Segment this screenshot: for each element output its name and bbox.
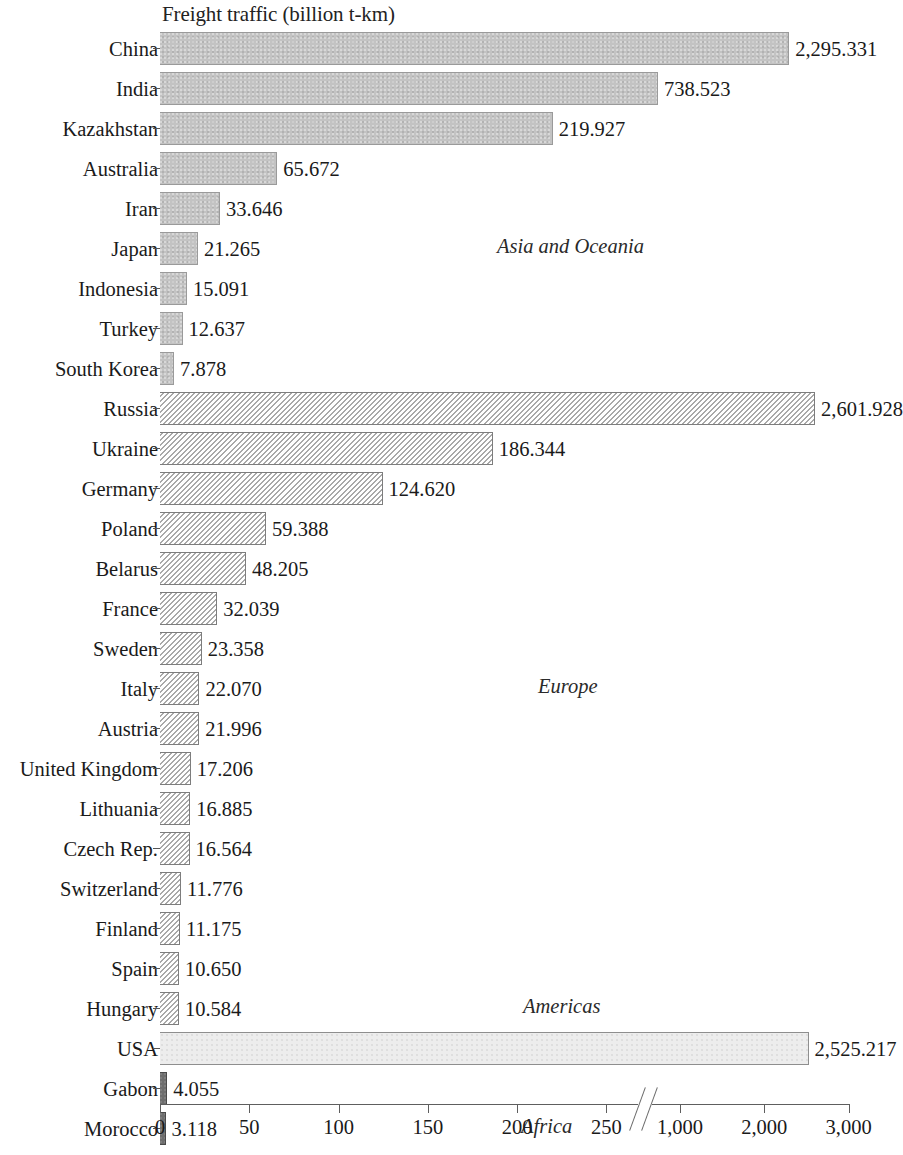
- bar[interactable]: [160, 912, 180, 945]
- category-label: Indonesia: [78, 276, 158, 302]
- bar-row: Spain10.650: [0, 949, 883, 989]
- bar[interactable]: [160, 512, 266, 545]
- x-axis-tick-label: 2,000: [741, 1116, 787, 1139]
- category-label: Germany: [82, 476, 158, 502]
- category-label: Belarus: [95, 556, 158, 582]
- bar[interactable]: [160, 672, 199, 705]
- category-label: Italy: [120, 676, 158, 702]
- category-label: Lithuania: [79, 796, 158, 822]
- category-tick: [153, 128, 160, 129]
- x-axis-tick-label: 0: [155, 1116, 165, 1139]
- category-label: India: [116, 76, 158, 102]
- bar[interactable]: [160, 952, 179, 985]
- category-label: United Kingdom: [20, 756, 158, 782]
- x-axis-tick-label: 250: [591, 1116, 622, 1139]
- bar[interactable]: [160, 712, 199, 745]
- bar[interactable]: [160, 392, 815, 425]
- x-axis-line: [160, 1104, 849, 1105]
- bar-value-label: 2,525.217: [815, 1036, 897, 1062]
- bar-value-label: 7.878: [180, 356, 226, 382]
- x-axis-tick: [339, 1104, 340, 1113]
- x-axis-tick: [606, 1104, 607, 1113]
- bar[interactable]: [160, 272, 187, 305]
- plot-area: China2,295.331India738.523Kazakhstan219.…: [0, 29, 883, 1104]
- bar-value-label: 22.070: [205, 676, 261, 702]
- bar-row: Lithuania16.885: [0, 789, 883, 829]
- bar-value-label: 124.620: [389, 476, 456, 502]
- category-tick: [153, 808, 160, 809]
- category-label: Australia: [83, 156, 158, 182]
- category-tick: [153, 368, 160, 369]
- bar-row: Kazakhstan219.927: [0, 109, 883, 149]
- category-tick: [153, 288, 160, 289]
- bar[interactable]: [160, 112, 553, 145]
- bar-row: South Korea7.878: [0, 349, 883, 389]
- category-label: Kazakhstan: [62, 116, 158, 142]
- category-tick: [153, 408, 160, 409]
- bar[interactable]: [160, 592, 217, 625]
- x-axis-tick-label: 50: [239, 1116, 260, 1139]
- bar-value-label: 219.927: [559, 116, 626, 142]
- chart-title: Freight traffic (billion t-km): [162, 2, 395, 27]
- bar-value-label: 12.637: [189, 316, 245, 342]
- category-tick: [153, 448, 160, 449]
- bar[interactable]: [160, 832, 190, 865]
- category-tick: [153, 848, 160, 849]
- bar[interactable]: [160, 152, 277, 185]
- category-tick: [153, 328, 160, 329]
- bar[interactable]: [160, 192, 220, 225]
- bar-row: Hungary10.584: [0, 989, 883, 1029]
- bar-row: Austria21.996: [0, 709, 883, 749]
- category-tick: [153, 168, 160, 169]
- bar-value-label: 2,601.928: [821, 396, 903, 422]
- bar[interactable]: [160, 432, 493, 465]
- bar[interactable]: [160, 632, 202, 665]
- bar-row: Indonesia15.091: [0, 269, 883, 309]
- x-axis-tick: [428, 1104, 429, 1113]
- category-label: USA: [117, 1036, 158, 1062]
- category-label: South Korea: [55, 356, 158, 382]
- bar-value-label: 10.584: [185, 996, 241, 1022]
- bar[interactable]: [160, 32, 789, 65]
- bar[interactable]: [160, 792, 190, 825]
- bar[interactable]: [160, 752, 191, 785]
- bar-row: Belarus48.205: [0, 549, 883, 589]
- bar-row: Australia65.672: [0, 149, 883, 189]
- category-tick: [153, 1088, 160, 1089]
- category-tick: [153, 968, 160, 969]
- bar[interactable]: [160, 872, 181, 905]
- x-axis-tick-label: 200: [502, 1116, 533, 1139]
- x-axis-tick-label: 3,000: [826, 1116, 872, 1139]
- bar[interactable]: [160, 1072, 167, 1105]
- bar[interactable]: [160, 352, 174, 385]
- category-tick: [153, 568, 160, 569]
- bar[interactable]: [160, 992, 179, 1025]
- bar-value-label: 65.672: [283, 156, 339, 182]
- bar[interactable]: [160, 312, 183, 345]
- category-label: Ukraine: [92, 436, 158, 462]
- bar[interactable]: [160, 552, 246, 585]
- bar-value-label: 21.265: [204, 236, 260, 262]
- region-annotation: Asia and Oceania: [497, 235, 644, 258]
- bar-value-label: 17.206: [197, 756, 253, 782]
- bar-row: USA2,525.217: [0, 1029, 883, 1069]
- bar-row: United Kingdom17.206: [0, 749, 883, 789]
- bar[interactable]: [160, 232, 198, 265]
- category-label: Spain: [111, 956, 158, 982]
- category-tick: [153, 1008, 160, 1009]
- bar[interactable]: [160, 1032, 809, 1065]
- bar-value-label: 186.344: [499, 436, 566, 462]
- bar[interactable]: [160, 72, 658, 105]
- bar-row: Poland59.388: [0, 509, 883, 549]
- bar-value-label: 23.358: [208, 636, 264, 662]
- category-label: France: [102, 596, 158, 622]
- category-tick: [153, 88, 160, 89]
- bar-value-label: 10.650: [185, 956, 241, 982]
- category-tick: [153, 768, 160, 769]
- bar-row: Iran33.646: [0, 189, 883, 229]
- category-label: Czech Rep.: [64, 836, 159, 862]
- x-axis: 0501001502002501,0002,0003,000: [0, 1104, 883, 1155]
- x-axis-tick: [849, 1104, 850, 1113]
- region-annotation: Europe: [538, 675, 598, 698]
- bar[interactable]: [160, 472, 383, 505]
